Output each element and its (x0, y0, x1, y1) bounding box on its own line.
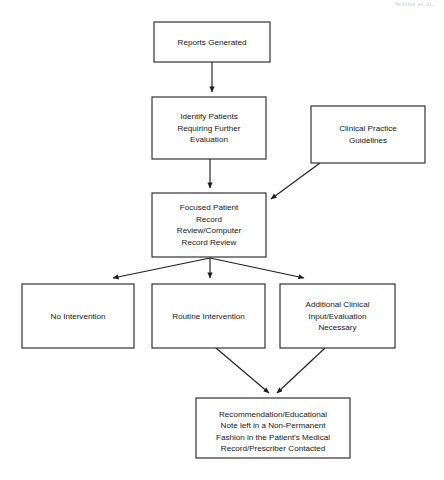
node-additional-clinical-input-label-line-2: Input/Evaluation (308, 312, 366, 321)
edge-focused-to-no-intervention (113, 258, 210, 278)
node-focused-patient-record-review[interactable]: Focused Patient Record Review/Computer R… (152, 193, 266, 257)
edge-guidelines-to-focused (271, 163, 320, 199)
node-routine-intervention[interactable]: Routine Intervention (152, 284, 265, 348)
node-additional-clinical-input[interactable]: Additional Clinical Input/Evaluation Nec… (280, 284, 395, 348)
node-identify-patients-label-line-3: Evaluation (190, 135, 228, 144)
flowchart-canvas: Reports Generated Identify Patients Requ… (0, 0, 444, 480)
node-reports-generated-label-line-1: Reports Generated (178, 38, 247, 47)
node-identify-patients-label-line-1: Identify Patients (180, 112, 238, 121)
node-no-intervention-label-line-1: No Intervention (51, 312, 106, 321)
node-recommendation-note-label-line-2: Note left in a Non-Permanent (221, 421, 327, 430)
node-clinical-practice-guidelines-label-line-2: Guidelines (349, 136, 387, 145)
node-focused-patient-record-review-label-line-4: Record Review (182, 238, 237, 247)
edge-focused-to-additional-clinical (210, 258, 304, 278)
node-clinical-practice-guidelines-box[interactable] (311, 106, 425, 163)
node-clinical-practice-guidelines-label-line-1: Clinical Practice (339, 124, 397, 133)
node-recommendation-note-label-line-4: Record/Prescriber Contacted (221, 444, 325, 453)
node-reports-generated[interactable]: Reports Generated (154, 22, 270, 62)
node-clinical-practice-guidelines[interactable]: Clinical Practice Guidelines (311, 106, 425, 163)
node-recommendation-note-label-line-1: Recommendation/Educational (219, 410, 327, 419)
node-no-intervention[interactable]: No Intervention (22, 284, 134, 348)
edge-routine-to-recommendation (216, 348, 269, 393)
flowchart-diagram: Walter et al. Reports Generated (0, 0, 444, 480)
node-recommendation-note[interactable]: Recommendation/Educational Note left in … (196, 398, 350, 458)
node-identify-patients[interactable]: Identify Patients Requiring Further Eval… (152, 97, 266, 159)
node-routine-intervention-label-line-1: Routine Intervention (172, 312, 244, 321)
node-additional-clinical-input-label-line-3: Necessary (318, 323, 357, 332)
node-recommendation-note-label-line-3: Fashion in the Patient's Medical (216, 433, 330, 442)
node-focused-patient-record-review-label-line-2: Record (196, 215, 222, 224)
edge-additional-to-recommendation (277, 348, 325, 393)
node-additional-clinical-input-label-line-1: Additional Clinical (306, 300, 370, 309)
node-identify-patients-label-line-2: Requiring Further (178, 124, 241, 133)
node-focused-patient-record-review-label-line-3: Review/Computer (177, 226, 242, 235)
node-focused-patient-record-review-label-line-1: Focused Patient (180, 203, 239, 212)
